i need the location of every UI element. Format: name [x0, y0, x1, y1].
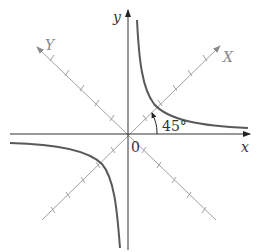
origin-label: 0 [131, 139, 140, 155]
angle-label: 45° [162, 118, 187, 134]
hyperbola-branch-lower-left [10, 143, 120, 248]
rotated-y-axis-label: Y [45, 37, 56, 53]
hyperbola-branch-upper-right [137, 20, 248, 128]
x-axis-label: x [241, 139, 249, 155]
rotated-x-axis-label: X [222, 49, 234, 65]
rotated-x-axis [42, 46, 220, 220]
angle-arc-icon [152, 113, 157, 134]
y-axis-label: y [112, 9, 122, 25]
hyperbola-diagram: y x X Y 0 45° [0, 0, 269, 252]
